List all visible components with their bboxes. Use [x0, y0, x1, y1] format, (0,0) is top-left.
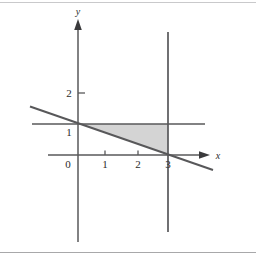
x-tick-label-0: 0: [65, 158, 71, 170]
x-axis-label: x: [215, 150, 221, 161]
y-tick-label-2: 2: [66, 87, 72, 99]
y-axis-arrowhead-icon: [74, 19, 82, 30]
x-axis-arrowhead-icon: [199, 151, 210, 159]
x-tick-label-3: 3: [165, 158, 171, 170]
y-axis-label: y: [75, 6, 81, 17]
x-tick-label-1: 1: [102, 158, 108, 170]
x-tick-label-2: 2: [135, 158, 141, 170]
y-tick-label-1: 1: [66, 126, 72, 138]
figure-container: 0 1 2 3 1 2 y x: [0, 0, 256, 261]
coordinate-plot: 0 1 2 3 1 2 y x: [0, 0, 256, 261]
diagonal-boundary-line: [30, 107, 213, 171]
